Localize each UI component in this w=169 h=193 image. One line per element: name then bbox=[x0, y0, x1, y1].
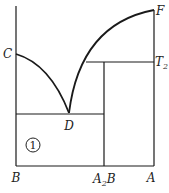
label-f: F bbox=[155, 4, 165, 18]
label-b: B bbox=[11, 171, 21, 185]
label-d: D bbox=[63, 119, 74, 133]
label-t2: T2 bbox=[155, 55, 168, 71]
label-a: A bbox=[146, 171, 156, 185]
label-a2b: A2B bbox=[92, 172, 116, 188]
label-c: C bbox=[3, 47, 12, 61]
phase-diagram: 1 C F T2 D B A2B A bbox=[0, 0, 169, 193]
region-1-label: 1 bbox=[30, 139, 37, 152]
liquidus-curve-cd bbox=[16, 54, 69, 113]
